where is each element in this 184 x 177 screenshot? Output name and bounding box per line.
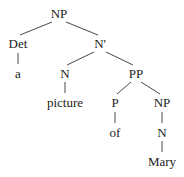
tree-node-mary: Mary [148,154,177,169]
tree-edges [18,22,162,152]
tree-edge-pp-np2 [141,82,160,94]
tree-node-det: Det [9,36,28,51]
tree-node-n2: N [157,125,167,140]
tree-edge-pp-p [117,82,131,94]
tree-svg: NPDetN'aNPPpicturePNPofNMary [0,0,184,177]
tree-edge-np_root-nbar [66,22,98,35]
tree-edge-np_root-det [20,22,52,35]
tree-node-nbar: N' [94,36,106,51]
tree-node-a: a [15,66,21,81]
tree-nodes: NPDetN'aNPPpicturePNPofNMary [9,6,177,169]
tree-edge-nbar-pp [106,52,133,65]
tree-node-n1: N [60,66,70,81]
tree-node-p: P [111,95,118,110]
tree-node-of: of [110,125,122,140]
tree-node-np_root: NP [51,6,68,21]
tree-node-pp: PP [129,66,143,81]
syntax-tree-diagram: NPDetN'aNPPpicturePNPofNMary [0,0,184,177]
tree-node-np2: NP [154,95,171,110]
tree-node-picture: picture [47,95,83,110]
tree-edge-nbar-n1 [67,52,94,65]
